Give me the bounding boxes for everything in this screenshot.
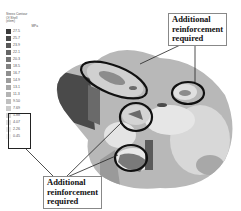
callout-bottom: Additional reinforcement required bbox=[43, 176, 102, 209]
callout-top: Additional reinforcement required bbox=[168, 13, 227, 46]
leader-line bbox=[25, 148, 55, 178]
